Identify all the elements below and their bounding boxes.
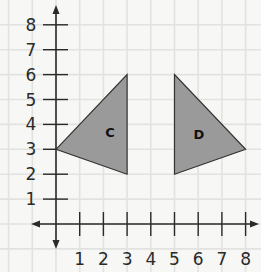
label-c: C bbox=[105, 125, 115, 140]
y-axis-arrow-down bbox=[53, 240, 60, 249]
label-d: D bbox=[194, 127, 205, 142]
y-tick-label: 3 bbox=[26, 139, 37, 159]
x-tick-label: 5 bbox=[169, 249, 180, 269]
x-tick-label: 6 bbox=[193, 249, 204, 269]
y-tick-label: 1 bbox=[26, 189, 37, 209]
graph-svg: C D 12345678 12345678 bbox=[0, 0, 261, 272]
x-tick-label: 2 bbox=[98, 249, 109, 269]
x-tick-label: 7 bbox=[216, 249, 227, 269]
y-tick-labels: 12345678 bbox=[26, 15, 37, 209]
y-axis-arrow-up bbox=[53, 5, 60, 14]
x-tick-label: 3 bbox=[122, 249, 133, 269]
y-tick-label: 4 bbox=[26, 114, 37, 134]
x-tick-labels: 12345678 bbox=[74, 249, 251, 269]
y-tick-label: 5 bbox=[26, 90, 37, 110]
y-tick-label: 8 bbox=[26, 15, 37, 35]
x-tick-label: 8 bbox=[240, 249, 251, 269]
y-tick-label: 7 bbox=[26, 40, 37, 60]
y-tick-label: 6 bbox=[26, 65, 37, 85]
x-axis-arrow-right bbox=[250, 221, 259, 228]
coordinate-plane: C D 12345678 12345678 bbox=[0, 0, 261, 272]
y-tick-label: 2 bbox=[26, 164, 37, 184]
x-tick-label: 4 bbox=[145, 249, 156, 269]
x-tick-label: 1 bbox=[74, 249, 85, 269]
